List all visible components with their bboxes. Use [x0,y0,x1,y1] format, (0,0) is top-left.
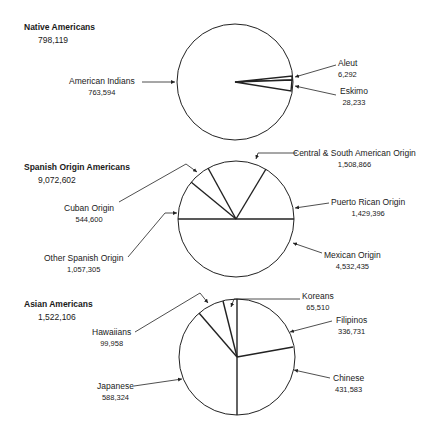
spanish-title: Spanish Origin Americans 9,072,602 [24,161,130,187]
label-mexican: Mexican Origin 4,532,435 [324,250,381,272]
native-title: Native Americans 798,119 [24,21,95,47]
label-hawaiians: Hawaiians 99,958 [92,327,131,349]
label-eskimo: Eskimo 28,233 [340,86,368,108]
label-central-south-american: Central & South American Origin 1,508,86… [293,148,416,170]
spanish-origin-pie [119,153,329,277]
label-other-spanish: Other Spanish Origin 1,057,305 [44,253,123,275]
label-chinese: Chinese 431,583 [333,373,364,395]
native-americans-pie [142,24,336,140]
label-aleut: Aleut 6,292 [338,58,357,80]
label-puerto-rican: Puerto Rican Origin 1,429,396 [331,197,405,219]
asian-title: Asian Americans 1,522,106 [24,298,93,324]
label-koreans: Koreans 65,510 [302,291,334,313]
label-japanese: Japanese 588,324 [97,381,134,403]
label-cuban: Cuban Origin 544,600 [64,203,114,225]
label-filipinos: Filipinos 336,731 [336,315,367,337]
label-american-indians: American Indians 763,594 [69,76,135,98]
